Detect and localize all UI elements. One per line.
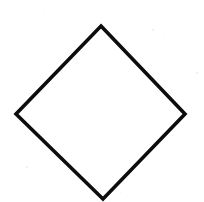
image-canvas <box>0 0 204 202</box>
diamond-figure <box>0 0 204 202</box>
